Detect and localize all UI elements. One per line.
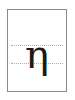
glyph-card: η [7,9,67,92]
glyph-character: η [8,34,66,74]
